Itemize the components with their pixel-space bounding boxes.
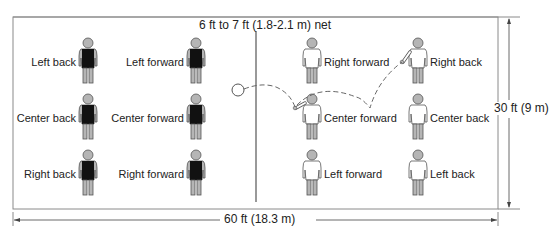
- ball: [232, 84, 244, 96]
- player-label-left-forward: Left forward: [126, 56, 184, 69]
- player-label-right-forward-opp: Right forward: [324, 56, 389, 69]
- player-label-right-forward: Right forward: [119, 168, 184, 181]
- player-label-center-forward: Center forward: [111, 112, 184, 125]
- player-label-center-forward-opp: Center forward: [324, 112, 397, 125]
- player-label-right-back-opp: Right back: [430, 56, 482, 69]
- length-dimension-label: 60 ft (18.3 m): [224, 213, 295, 226]
- player-figure-left-back: [79, 38, 97, 83]
- player-label-left-back: Left back: [31, 56, 76, 69]
- player-label-center-back-opp: Center back: [430, 112, 489, 125]
- width-dimension-label: 30 ft (9 m): [492, 102, 551, 115]
- player-label-left-back-opp: Left back: [430, 168, 475, 181]
- player-figure-left-back-opp: [409, 150, 427, 195]
- player-figure-center-forward-opp: [303, 94, 321, 139]
- player-figure-left-forward: [187, 38, 205, 83]
- player-figure-center-forward: [187, 94, 205, 139]
- player-figure-left-forward-opp: [303, 150, 321, 195]
- player-figure-right-forward-opp: [303, 38, 321, 83]
- player-label-left-forward-opp: Left forward: [324, 168, 382, 181]
- net-label: 6 ft to 7 ft (1.8-2.1 m) net: [199, 19, 331, 32]
- volleyball-court-diagram: 6 ft to 7 ft (1.8-2.1 m) net 30 ft (9 m)…: [0, 0, 560, 244]
- player-figure-center-back: [79, 94, 97, 139]
- player-label-center-back: Center back: [17, 112, 76, 125]
- player-figure-right-back: [79, 150, 97, 195]
- player-figure-right-back-opp: [409, 38, 427, 83]
- player-figure-center-back-opp: [409, 94, 427, 139]
- player-label-right-back: Right back: [24, 168, 76, 181]
- player-figure-right-forward: [187, 150, 205, 195]
